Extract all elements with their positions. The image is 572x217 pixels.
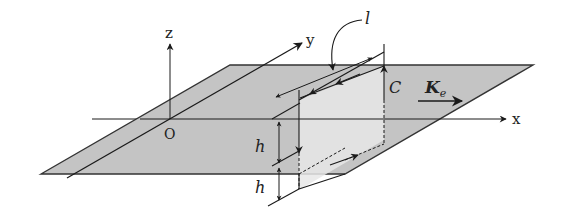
length-pointer [332,20,362,70]
rail-lower [268,189,299,206]
origin-label: O [164,126,175,142]
x-axis-label: x [512,110,521,128]
k-symbol: K [424,77,441,97]
k-subscript: e [440,87,447,100]
h-lower-label: h [255,178,265,197]
length-label-l: l [365,9,370,28]
h-upper-label: h [255,137,265,156]
current-sheet-figure: x z y O C l h h Ke [0,0,572,217]
z-axis-label: z [165,24,173,42]
y-axis-label: y [305,31,315,49]
loop-label-c: C [389,78,401,97]
